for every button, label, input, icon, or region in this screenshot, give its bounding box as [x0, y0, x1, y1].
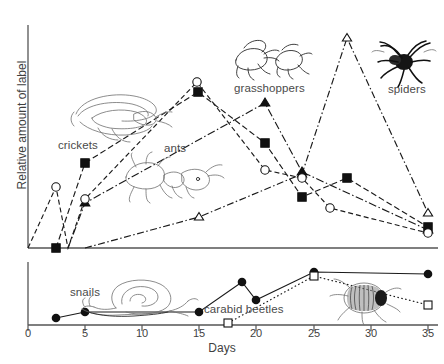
series-crickets — [52, 88, 432, 252]
x-tick-10: 10 — [136, 327, 148, 339]
series-grasshoppers — [68, 98, 433, 248]
x-tick-0: 0 — [25, 327, 31, 339]
ant-drawing-icon — [126, 152, 224, 203]
annotation-crickets: crickets — [58, 139, 98, 151]
x-tick-35: 35 — [422, 327, 434, 339]
y-axis-label: Relative amount of label — [15, 45, 29, 205]
beetle-drawing-icon — [330, 279, 401, 325]
x-tick-5: 5 — [82, 327, 88, 339]
annotation-ants: ants — [164, 142, 186, 154]
x-tick-15: 15 — [193, 327, 205, 339]
spider-drawing-icon — [372, 41, 436, 87]
figure-container: .axis{stroke:#555;stroke-width:1.3;fill:… — [0, 0, 444, 364]
annotation-carabid-beetles: carabid beetles — [204, 303, 284, 315]
x-tick-20: 20 — [250, 327, 262, 339]
series-crickets-markers — [52, 88, 432, 252]
x-tick-30: 30 — [365, 327, 377, 339]
x-axis-label: Days — [0, 341, 444, 355]
x-tick-25: 25 — [308, 327, 320, 339]
series-ants-markers — [52, 78, 432, 237]
annotation-snails: snails — [70, 286, 100, 298]
series-grasshoppers-markers — [80, 98, 433, 233]
annotation-grasshoppers: grasshoppers — [234, 82, 305, 94]
annotation-spiders: spiders — [388, 83, 426, 95]
grasshopper-drawing-icon — [236, 40, 312, 80]
upper-panel-axes — [28, 25, 438, 248]
